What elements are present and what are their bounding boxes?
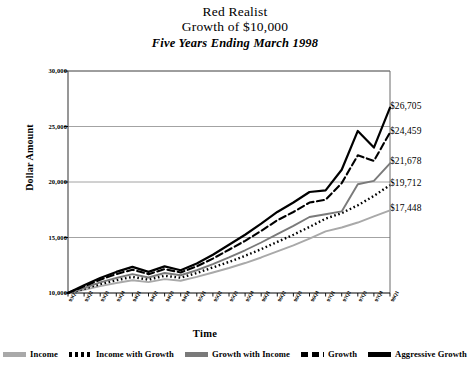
legend-swatch-icon [3,352,26,357]
legend-label: Income with Growth [96,349,174,359]
chart-container: Red Realist Growth of $10,000 Five Years… [0,0,470,376]
legend-swatch-icon [368,352,391,357]
series-line-income-with-growth [68,185,390,293]
series-line-income [68,210,390,293]
legend-item-growth[interactable]: Growth [301,349,357,359]
chart-legend: IncomeIncome with GrowthGrowth with Inco… [0,349,470,359]
legend-item-aggressive-growth[interactable]: Aggressive Growth [368,349,467,359]
legend-item-income[interactable]: Income [3,349,58,359]
series-line-aggressive-growth [68,108,390,293]
legend-item-growth-with-income[interactable]: Growth with Income [185,349,290,359]
plot-area [0,0,470,376]
legend-label: Growth [328,349,357,359]
legend-swatch-icon [301,352,324,357]
legend-label: Income [30,349,58,359]
legend-label: Growth with Income [212,349,290,359]
legend-item-income-with-growth[interactable]: Income with Growth [69,349,174,359]
legend-label: Aggressive Growth [395,349,467,359]
legend-swatch-icon [69,352,92,357]
legend-swatch-icon [185,352,208,357]
